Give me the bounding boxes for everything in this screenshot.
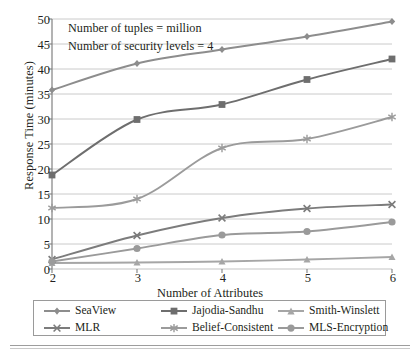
x-tick-6: 6 [378,272,408,285]
data-point-marker [388,218,395,225]
data-point-marker [389,56,396,63]
data-point-marker [219,101,226,108]
x-tick-4: 4 [208,272,238,285]
y-tick-40: 40 [24,64,50,77]
legend-label-seaview: SeaView [75,305,116,317]
y-tick-30: 30 [24,114,50,127]
legend-label-jajodia-sandhu: Jajodia-Sandhu [192,305,263,317]
x-tick-2: 2 [38,272,68,285]
legend-item-belief-consistent[interactable]: Belief-Consistent [151,319,268,337]
y-tick-45: 45 [24,39,50,52]
data-point-marker [133,245,140,252]
data-point-marker [134,116,141,123]
legend-item-jajodia-sandhu[interactable]: Jajodia-Sandhu [151,302,268,320]
data-point-marker [134,60,140,67]
y-tick-5: 5 [24,239,50,252]
series-line-mls-encryption [52,222,392,262]
annotation-tuples: Number of tuples = million [68,22,201,34]
y-tick-15: 15 [24,189,50,202]
legend-label-mls-encryption: MLS-Encryption [309,322,388,334]
data-point-marker [219,46,225,53]
legend-label-mlr: MLR [75,322,100,334]
legend-item-mlr[interactable]: MLR [34,319,151,337]
y-tick-25: 25 [24,139,50,152]
data-point-marker [304,33,310,40]
seaview-marker-icon [44,304,70,318]
bottom-rule-secondary [10,348,410,349]
smith-winslett-marker-icon [278,304,304,318]
mlr-marker-icon [44,321,70,335]
annotation-security-levels: Number of security levels = 4 [68,40,213,52]
legend-label-smith-winslett: Smith-Winslett [309,305,379,317]
mls-encryption-marker-icon [278,321,304,335]
jajodia-sandhu-marker-icon [161,304,187,318]
belief-consistent-marker-icon [161,321,187,335]
bottom-rule [10,345,410,346]
y-tick-20: 20 [24,164,50,177]
y-tick-10: 10 [24,214,50,227]
data-point-marker [304,76,311,83]
chart-figure: Response Time (minutes) Number of tuples… [0,0,420,354]
legend-item-smith-winslett[interactable]: Smith-Winslett [268,302,385,320]
data-point-marker [303,228,310,235]
chart-legend: SeaView Jajodia-Sandhu Smith-Winslett ML… [33,300,386,336]
y-tick-50: 50 [24,14,50,27]
legend-label-belief-consistent: Belief-Consistent [192,322,273,334]
x-tick-3: 3 [123,272,153,285]
y-tick-35: 35 [24,89,50,102]
data-point-marker [218,231,225,238]
legend-item-seaview[interactable]: SeaView [34,302,151,320]
legend-item-mls-encryption[interactable]: MLS-Encryption [268,319,385,337]
x-axis-label: Number of Attributes [0,286,420,301]
x-tick-5: 5 [293,272,323,285]
series-line-jajodia-sandhu [52,59,392,175]
